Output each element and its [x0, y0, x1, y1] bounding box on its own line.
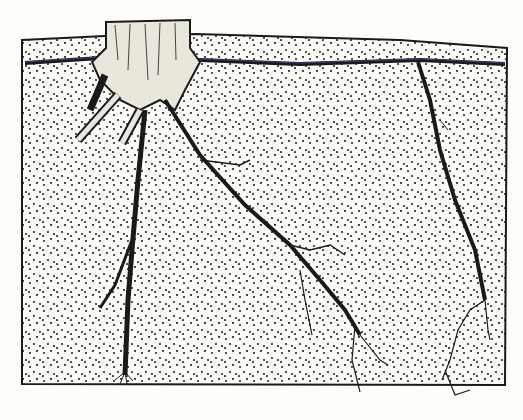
root-system-illustration: [0, 0, 523, 420]
soil-block: [22, 34, 507, 385]
